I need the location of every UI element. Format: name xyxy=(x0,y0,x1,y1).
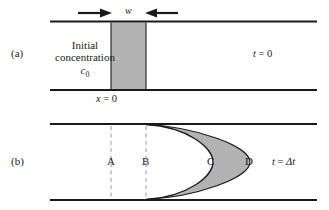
panel-b-time-label: t = Δt xyxy=(272,157,295,168)
station-label-a: A xyxy=(107,156,115,167)
initial-concentration-line2: concentration xyxy=(34,51,136,63)
initial-concentration-line1: Initial xyxy=(34,39,136,51)
station-label-c: C xyxy=(207,156,214,167)
arrow-right-icon xyxy=(78,8,112,17)
time-symbol-b: t xyxy=(272,156,275,167)
figure-canvas xyxy=(0,0,329,210)
x-origin-label: x = 0 xyxy=(96,94,117,105)
arrow-left-icon xyxy=(145,8,178,17)
x-symbol: x xyxy=(96,93,101,104)
width-label-w: w xyxy=(125,6,132,16)
x-value: 0 xyxy=(112,93,117,104)
time-value-a: 0 xyxy=(267,48,272,59)
panel-a-time-label: t = 0 xyxy=(253,49,272,60)
initial-concentration-text: Initial concentration c0 xyxy=(34,39,136,79)
initial-concentration-symbol: c0 xyxy=(34,64,136,79)
panel-b-tag: (b) xyxy=(11,156,24,167)
time-equals-a: = xyxy=(259,48,265,59)
station-label-d: D xyxy=(245,156,253,167)
diffusion-figure: (a) w Initial concentration c0 t = 0 x =… xyxy=(0,0,329,210)
time-equals-b: = xyxy=(278,156,284,167)
c-subscript: 0 xyxy=(85,69,89,78)
station-label-b: B xyxy=(142,156,149,167)
time-value-b: Δt xyxy=(286,156,295,167)
time-symbol-a: t xyxy=(253,48,256,59)
dispersion-crescent-shading xyxy=(146,125,250,200)
x-equals: = xyxy=(103,93,109,104)
panel-a-tag: (a) xyxy=(11,48,23,59)
